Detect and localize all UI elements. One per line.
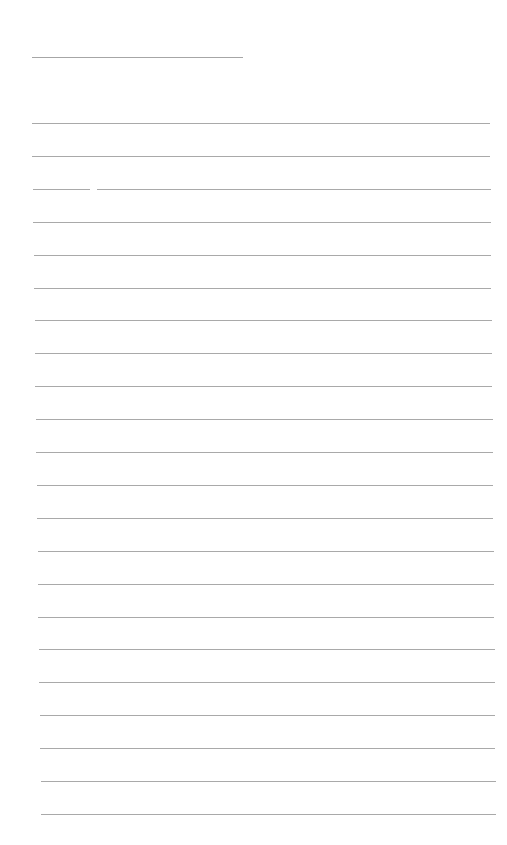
writing-line — [32, 123, 490, 124]
writing-line — [37, 485, 493, 486]
writing-line — [40, 748, 495, 749]
writing-line — [35, 353, 492, 354]
writing-line — [39, 649, 495, 650]
lined-paper-page — [0, 0, 507, 845]
writing-line — [38, 551, 494, 552]
writing-line — [38, 584, 494, 585]
writing-line — [41, 814, 496, 815]
line-break-gap — [90, 188, 97, 191]
writing-line — [35, 386, 492, 387]
writing-line — [36, 452, 493, 453]
writing-line — [32, 156, 490, 157]
writing-line — [34, 288, 491, 289]
writing-line — [39, 682, 495, 683]
header-line — [32, 57, 243, 58]
writing-line — [33, 222, 491, 223]
writing-line — [34, 255, 491, 256]
writing-line — [41, 781, 496, 782]
writing-line — [35, 320, 492, 321]
writing-line — [37, 518, 493, 519]
writing-line — [36, 419, 493, 420]
writing-line — [33, 189, 491, 190]
writing-line — [40, 715, 495, 716]
writing-line — [38, 617, 494, 618]
